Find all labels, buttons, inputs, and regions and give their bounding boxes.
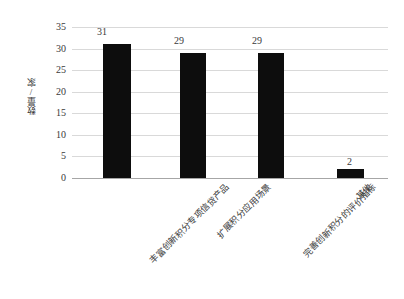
gridline-35 — [72, 27, 388, 28]
bar-chart: 数量/家 0 5 10 15 20 25 30 35 31 29 29 2 丰富… — [0, 0, 404, 299]
x-axis-line — [72, 178, 388, 179]
y-tick-5: 5 — [26, 151, 66, 161]
bar-value-label-0: 31 — [88, 26, 116, 37]
y-tick-35: 35 — [26, 22, 66, 32]
bar-value-label-3: 2 — [336, 156, 363, 167]
y-axis-ticks: 0 5 10 15 20 25 30 35 — [22, 27, 66, 178]
y-tick-30: 30 — [26, 44, 66, 54]
y-tick-20: 20 — [26, 87, 66, 97]
y-tick-25: 25 — [26, 65, 66, 75]
bar-2 — [258, 53, 284, 178]
y-tick-10: 10 — [26, 130, 66, 140]
bar-value-label-2: 29 — [244, 35, 270, 46]
bar-value-label-1: 29 — [166, 35, 192, 46]
y-tick-0: 0 — [26, 173, 66, 183]
y-tick-15: 15 — [26, 108, 66, 118]
bar-1 — [180, 53, 206, 178]
bar-3 — [337, 169, 364, 178]
x-axis-label-0: 丰富创新积分专项信贷产品 — [148, 182, 231, 265]
bar-0 — [103, 44, 131, 178]
